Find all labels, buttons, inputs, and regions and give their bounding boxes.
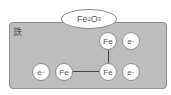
node-electron-top: e− — [122, 32, 140, 50]
oxide-fe: Fe — [77, 14, 88, 24]
node-fe-top: Fe — [99, 32, 117, 50]
node-fe-mid: Fe — [99, 63, 117, 81]
oxide-o: O — [91, 14, 98, 24]
node-electron-right: e− — [122, 63, 140, 81]
iron-label: 鉄 — [13, 25, 22, 38]
iron-region — [9, 22, 167, 89]
node-electron-left: e− — [32, 63, 50, 81]
node-label: Fe — [103, 37, 112, 46]
oxide-sub2: 3 — [98, 16, 101, 22]
iron-oxide-ellipse: Fe2O3 — [61, 9, 117, 29]
node-fe-left: Fe — [55, 63, 73, 81]
node-charge: − — [132, 38, 135, 44]
node-label: Fe — [103, 68, 112, 77]
node-charge: − — [42, 69, 45, 75]
node-label: Fe — [59, 68, 68, 77]
node-charge: − — [132, 69, 135, 75]
